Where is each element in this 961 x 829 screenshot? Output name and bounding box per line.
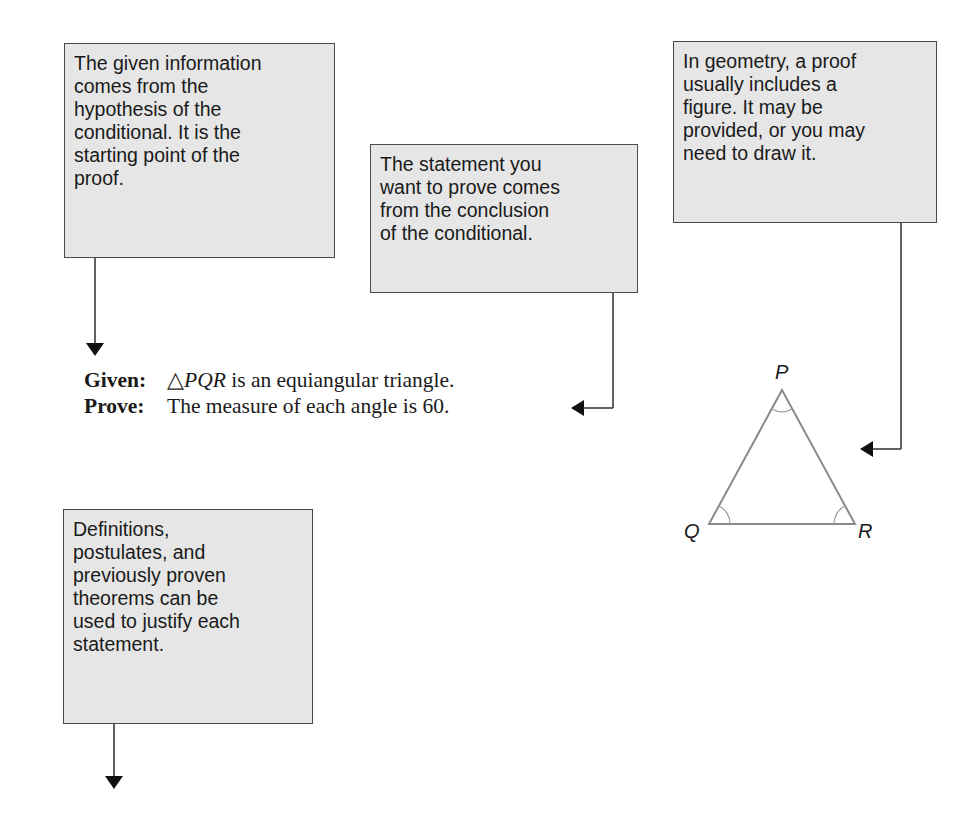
callout-given-info: The given information comes from the hyp… bbox=[64, 43, 335, 258]
angle-arc-p bbox=[772, 409, 792, 412]
callout-text: usually includes a bbox=[683, 73, 926, 96]
prove-label: Prove: bbox=[84, 394, 167, 419]
callout-text: hypothesis of the bbox=[74, 98, 324, 121]
arrow-left-icon bbox=[571, 400, 584, 416]
arrow-down-icon bbox=[86, 343, 104, 356]
angle-arc-r bbox=[834, 506, 845, 524]
callout-text: postulates, and bbox=[73, 541, 302, 564]
prove-text: The measure of each angle is 60. bbox=[167, 394, 449, 418]
callout-text: comes from the bbox=[74, 75, 324, 98]
triangle-name: PQR bbox=[184, 368, 226, 392]
arrow-left-icon bbox=[860, 441, 873, 457]
callout-text: In geometry, a proof bbox=[683, 50, 926, 73]
triangle-symbol: △ bbox=[167, 368, 184, 392]
callout-text: The statement you bbox=[380, 153, 627, 176]
callout-text: proof. bbox=[74, 167, 324, 190]
callout-text: want to prove comes bbox=[380, 176, 627, 199]
given-text: is an equiangular triangle. bbox=[226, 368, 455, 392]
connector-figure bbox=[860, 222, 901, 457]
callout-text: figure. It may be bbox=[683, 96, 926, 119]
callout-text: theorems can be bbox=[73, 587, 302, 610]
callout-text: from the conclusion bbox=[380, 199, 627, 222]
connector-given bbox=[86, 257, 104, 356]
callout-text: statement. bbox=[73, 633, 302, 656]
callout-text: previously proven bbox=[73, 564, 302, 587]
callout-text: of the conditional. bbox=[380, 222, 627, 245]
prove-statement: Prove:The measure of each angle is 60. bbox=[84, 394, 449, 419]
connector-justification bbox=[105, 723, 123, 789]
callout-text: The given information bbox=[74, 52, 324, 75]
vertex-label-q: Q bbox=[684, 520, 700, 543]
given-statement: Given:△PQR is an equiangular triangle. bbox=[84, 367, 454, 393]
callout-text: provided, or you may bbox=[683, 119, 926, 142]
connector-prove bbox=[571, 292, 613, 416]
callout-prove-statement: The statement you want to prove comes fr… bbox=[370, 144, 638, 293]
vertex-label-p: P bbox=[775, 361, 788, 384]
given-label: Given: bbox=[84, 368, 167, 393]
arrow-down-icon bbox=[105, 776, 123, 789]
callout-text: starting point of the bbox=[74, 144, 324, 167]
angle-arc-q bbox=[719, 506, 730, 524]
triangle-pqr-figure bbox=[709, 390, 855, 524]
callout-text: conditional. It is the bbox=[74, 121, 324, 144]
callout-text: used to justify each bbox=[73, 610, 302, 633]
callout-text: Definitions, bbox=[73, 518, 302, 541]
callout-figure: In geometry, a proof usually includes a … bbox=[673, 41, 937, 223]
callout-justification: Definitions, postulates, and previously … bbox=[63, 509, 313, 724]
vertex-label-r: R bbox=[858, 520, 872, 543]
callout-text: need to draw it. bbox=[683, 142, 926, 165]
